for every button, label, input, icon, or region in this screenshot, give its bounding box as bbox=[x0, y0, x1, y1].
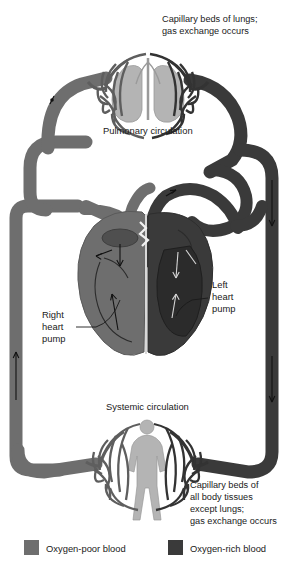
circulation-figure-svg: Capillary beds of lungs; gas exchange oc… bbox=[0, 0, 295, 568]
body-caption: Capillary beds of all body tissues excep… bbox=[190, 480, 277, 526]
left-heart-pump-line-3: pump bbox=[212, 303, 235, 314]
superior-vena-cava-stub bbox=[86, 206, 104, 214]
lungs-silhouette bbox=[112, 58, 184, 122]
circulation-diagram: Capillary beds of lungs; gas exchange oc… bbox=[0, 0, 295, 568]
heart-cross-section bbox=[78, 211, 213, 355]
legend-label-oxygen-poor: Oxygen-poor blood bbox=[46, 543, 126, 554]
legend-item-oxygen-poor: Oxygen-poor blood bbox=[24, 540, 126, 555]
lungs-caption-line-2: gas exchange occurs bbox=[162, 26, 249, 36]
systemic-circulation-label: Systemic circulation bbox=[106, 401, 189, 412]
legend: Oxygen-poor blood Oxygen-rich blood bbox=[24, 540, 266, 555]
body-caption-line-1: Capillary beds of bbox=[190, 480, 259, 490]
lungs-caption: Capillary beds of lungs; gas exchange oc… bbox=[162, 14, 258, 36]
body-caption-line-3: except lungs; bbox=[190, 504, 244, 514]
body-caption-line-2: all body tissues bbox=[190, 492, 253, 502]
right-heart-pump-line-1: Right bbox=[42, 309, 64, 320]
right-heart-pump-line-2: heart bbox=[42, 321, 64, 332]
legend-item-oxygen-rich: Oxygen-rich blood bbox=[168, 540, 266, 555]
legend-swatch-oxygen-poor bbox=[24, 540, 39, 555]
lungs-caption-line-1: Capillary beds of lungs; bbox=[162, 14, 258, 24]
legend-swatch-oxygen-rich bbox=[168, 540, 183, 555]
pulmonary-circulation-label: Pulmonary circulation bbox=[103, 125, 193, 136]
right-heart-pump-line-3: pump bbox=[42, 333, 65, 344]
body-caption-line-4: gas exchange occurs bbox=[190, 516, 277, 526]
legend-label-oxygen-rich: Oxygen-rich blood bbox=[190, 543, 266, 554]
human-body-silhouette bbox=[128, 420, 166, 520]
left-heart-pump-line-2: heart bbox=[212, 291, 234, 302]
left-heart-pump-line-1: Left bbox=[212, 279, 228, 290]
systemic-vein-to-body-bed bbox=[18, 450, 96, 472]
